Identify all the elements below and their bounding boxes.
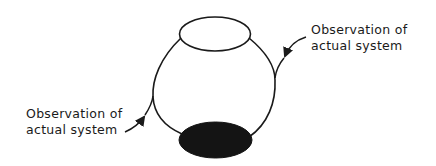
right-observation-arrow [285, 37, 306, 56]
top-ellipse [180, 17, 251, 51]
left-loop-path [153, 38, 182, 134]
left-observation-label: Observation of actual system [26, 106, 122, 138]
left-observation-arrow [125, 117, 144, 132]
left-label-line2: actual system [26, 122, 122, 138]
right-observation-label: Observation of actual system [311, 22, 407, 54]
bottom-ellipse [179, 122, 252, 158]
right-loop-path [249, 38, 275, 137]
left-arrow-merge [145, 96, 153, 115]
right-label-line1: Observation of [311, 22, 407, 38]
right-arrow-merge [275, 58, 284, 78]
left-label-line1: Observation of [26, 106, 122, 122]
right-label-line2: actual system [311, 38, 407, 54]
